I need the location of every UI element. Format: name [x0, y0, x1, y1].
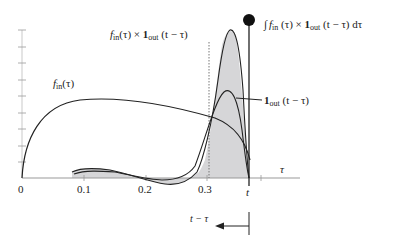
t-mark-label: t: [246, 186, 250, 198]
convolution-diagram: fin(τ) × 1out (t − τ) ∫fin (τ) × 1out (t…: [0, 0, 404, 249]
shift-arrow-head: [215, 223, 224, 230]
x-tick-label-0.2: 0.2: [138, 183, 152, 195]
shift-label: t − τ: [190, 213, 209, 224]
indicator-label: 1out (t − τ): [264, 94, 309, 108]
f-in-label: fin(τ): [53, 77, 74, 91]
integral-value-dot: [243, 14, 255, 26]
integral-label: ∫fin (τ) × 1out (t − τ) dτ: [263, 18, 363, 32]
x-tick-label-0: 0: [18, 183, 24, 195]
product-label: fin(τ) × 1out (t − τ): [110, 28, 188, 42]
x-tick-label-0.1: 0.1: [77, 183, 91, 195]
product-area-fill: [148, 31, 248, 178]
x-tick-label-0.3: 0.3: [198, 183, 212, 195]
tau-axis-label: τ: [280, 163, 285, 175]
